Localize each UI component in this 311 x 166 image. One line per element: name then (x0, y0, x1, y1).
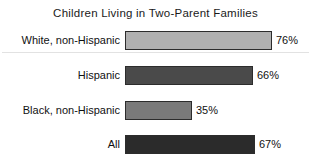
bar[interactable] (125, 101, 192, 120)
value-label: 67% (259, 134, 281, 155)
chart-row: All 67% (0, 134, 311, 155)
category-label: Hispanic (0, 65, 120, 86)
chart-title: Children Living in Two-Parent Families (0, 7, 311, 19)
bar[interactable] (125, 135, 255, 154)
bar[interactable] (125, 31, 272, 50)
bar-chart: Children Living in Two-Parent Families W… (0, 0, 311, 166)
category-label: All (0, 134, 120, 155)
category-label: White, non-Hispanic (0, 30, 120, 51)
chart-row: Black, non-Hispanic 35% (0, 100, 311, 121)
value-label: 76% (276, 30, 298, 51)
value-label: 35% (196, 100, 218, 121)
bar[interactable] (125, 66, 253, 85)
category-label: Black, non-Hispanic (0, 100, 120, 121)
value-label: 66% (257, 65, 279, 86)
chart-row: Hispanic 66% (0, 65, 311, 86)
chart-row: White, non-Hispanic 76% (0, 30, 311, 51)
row-divider (2, 52, 309, 53)
